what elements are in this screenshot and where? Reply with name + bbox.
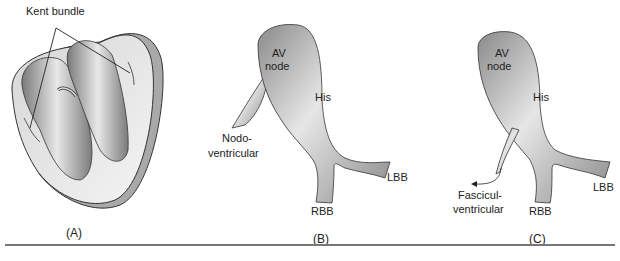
label-rbb-c: RBB [529,205,552,218]
label-lbb-b: LBB [387,171,408,184]
label-av-b: AV [272,47,286,60]
label-fasc-2: ventricular [453,203,504,216]
panel-label-a: (A) [66,226,82,240]
label-his-c: His [533,91,549,104]
label-nodo-1: Nodo- [222,132,252,145]
diagram-canvas [0,0,620,261]
conduction-diagram-c [471,32,610,203]
label-av-c: AV [495,47,509,60]
label-node-b: node [265,60,289,73]
label-node-c: node [487,60,511,73]
heart-cross-section [12,28,163,208]
label-kent-bundle: Kent bundle [26,5,85,18]
label-nodo-2: ventricular [208,147,259,160]
bottom-rule [5,244,615,246]
label-fasc-1: Fascicul- [458,189,502,202]
label-his-b: His [315,91,331,104]
label-lbb-c: LBB [593,181,614,194]
label-rbb-b: RBB [311,205,334,218]
conduction-diagram-b [232,24,390,203]
